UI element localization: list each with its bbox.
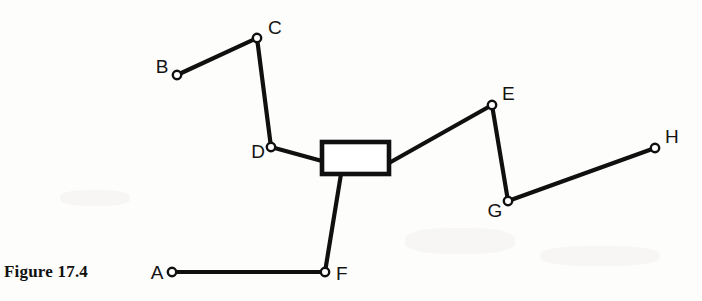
link-D-block — [271, 147, 322, 161]
link-C-D — [257, 38, 271, 147]
link-block-E — [389, 105, 492, 163]
figure-caption: Figure 17.4 — [4, 262, 88, 282]
node-label-h: H — [665, 126, 679, 147]
joint-f — [321, 268, 329, 276]
link-block-F — [325, 174, 341, 272]
node-label-f: F — [336, 263, 348, 284]
slider-block-group — [322, 142, 389, 174]
node-label-c: C — [268, 17, 282, 38]
joint-e — [488, 101, 496, 109]
joint-d — [267, 143, 275, 151]
node-label-g: G — [488, 200, 503, 221]
linkage-diagram: ABCDEFGH — [0, 0, 702, 301]
joint-b — [173, 71, 181, 79]
node-label-d: D — [251, 141, 265, 162]
node-label-a: A — [151, 262, 164, 283]
slider-block — [322, 142, 389, 174]
link-G-H — [508, 148, 655, 201]
joint-c — [253, 34, 261, 42]
links-group — [172, 38, 655, 272]
joints-group — [168, 34, 659, 276]
link-E-G — [492, 105, 508, 201]
joint-a — [168, 268, 176, 276]
figure-container: ABCDEFGH Figure 17.4 — [0, 0, 702, 301]
joint-h — [651, 144, 659, 152]
node-label-b: B — [156, 56, 169, 77]
node-label-e: E — [502, 83, 515, 104]
link-B-C — [177, 38, 257, 75]
joint-g — [504, 197, 512, 205]
